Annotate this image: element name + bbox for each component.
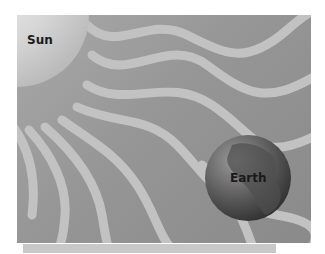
- sun-label: Sun: [27, 33, 53, 47]
- diagram-panel: Sun Earth: [17, 15, 311, 243]
- sun-shape: [17, 15, 89, 87]
- sun-rays: [17, 15, 311, 243]
- earth-label: Earth: [230, 171, 267, 185]
- bottom-strip: [23, 244, 276, 253]
